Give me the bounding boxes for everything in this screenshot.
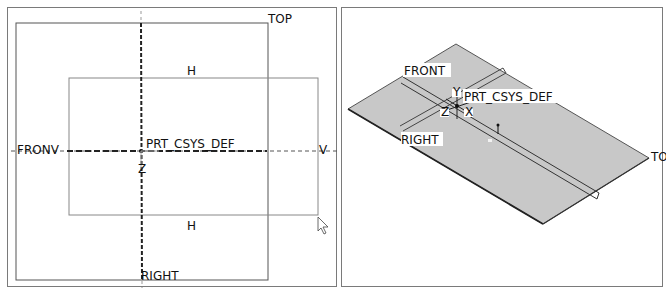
viewport-top-view[interactable]: Z TOP H H V FRONV PRT_CSYS_DEF RIGHT (7, 7, 337, 287)
top-plane-label[interactable]: TO (650, 150, 666, 164)
iso-view-canvas: Y Z X FRONT PRT_CSYS_DEF RIGHT TO (342, 8, 664, 288)
svg-text:Y: Y (452, 85, 461, 99)
viewport-isometric-view[interactable]: Y Z X FRONT PRT_CSYS_DEF RIGHT TO (341, 7, 663, 287)
sketch-constraint-h-bottom: H (187, 219, 196, 233)
top-view-canvas: Z TOP H H V FRONV PRT_CSYS_DEF RIGHT (8, 8, 338, 288)
svg-text:X: X (465, 105, 473, 119)
sketch-constraint-v: V (319, 143, 328, 157)
csys-label[interactable]: PRT_CSYS_DEF (146, 137, 235, 151)
right-plane-label[interactable]: RIGHT (141, 269, 179, 283)
axis-z-label: Z (138, 162, 146, 176)
front-plane-label[interactable]: FRONV (17, 143, 60, 157)
right-plane-label[interactable]: RIGHT (401, 133, 439, 147)
front-plane-label[interactable]: FRONT (404, 64, 446, 78)
svg-text:Z: Z (441, 105, 449, 119)
top-plane-label[interactable]: TOP (267, 12, 292, 26)
csys-label[interactable]: PRT_CSYS_DEF (464, 90, 553, 104)
sketch-constraint-h-top: H (187, 64, 196, 78)
mouse-cursor-icon (318, 217, 328, 234)
